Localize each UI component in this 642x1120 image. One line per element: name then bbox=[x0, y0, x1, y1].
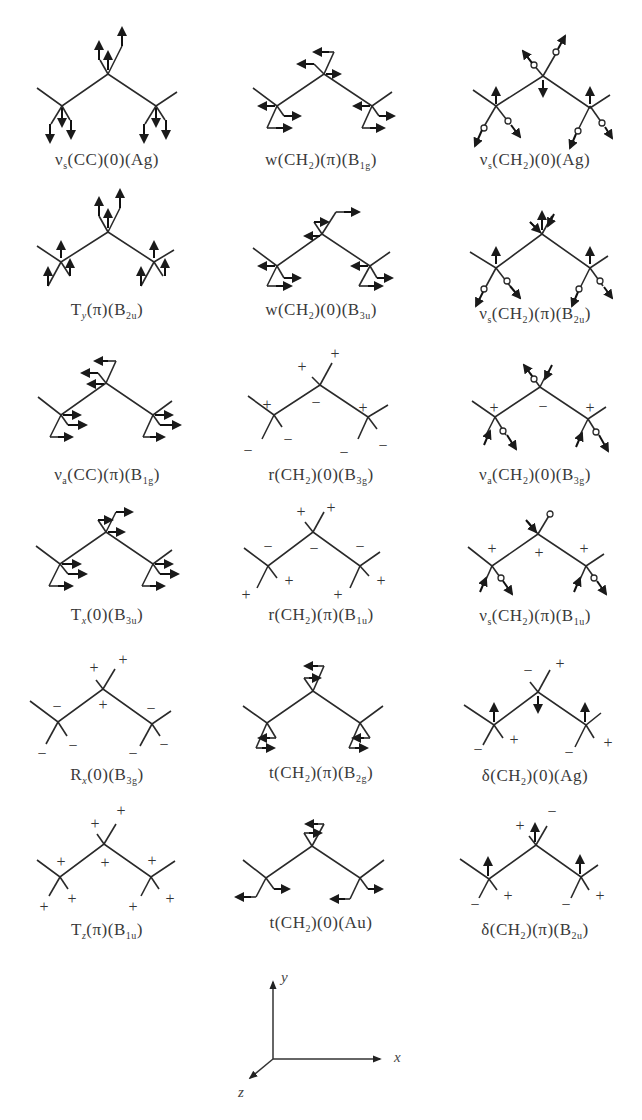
svg-text:+: + bbox=[56, 853, 65, 870]
x-axis-label: x bbox=[394, 1049, 401, 1066]
svg-text:+: + bbox=[376, 572, 385, 589]
svg-text:+: + bbox=[489, 399, 498, 416]
svg-text:+: + bbox=[579, 540, 588, 557]
mode-label: νa(CH2)(0)(B3g) bbox=[428, 465, 642, 486]
svg-text:−: − bbox=[564, 744, 573, 761]
svg-text:−: − bbox=[561, 896, 570, 913]
mode-label: w(CH2)(0)(B3u) bbox=[214, 300, 428, 321]
svg-text:+: + bbox=[90, 815, 99, 832]
svg-text:−: − bbox=[378, 437, 387, 454]
svg-text:+: + bbox=[326, 499, 335, 516]
svg-text:+: + bbox=[585, 399, 594, 416]
mode-label: νs(CH2)(0)(Ag) bbox=[428, 150, 642, 171]
mode-label: νs(CH2)(π)(B2u) bbox=[428, 304, 642, 325]
chain-diagram bbox=[428, 0, 642, 150]
svg-text:−: − bbox=[243, 442, 252, 459]
svg-text:+: + bbox=[89, 659, 98, 676]
mode-label: w(CH2)(π)(B1g) bbox=[214, 150, 428, 171]
svg-text:−: − bbox=[339, 444, 348, 461]
mode-label: δ(CH2)(π)(B2u) bbox=[428, 920, 642, 941]
svg-text:−: − bbox=[470, 896, 479, 913]
mode-label: δ(CH2)(0)(Ag) bbox=[428, 766, 642, 787]
svg-text:+: + bbox=[147, 852, 156, 869]
mode-w-ch2-0-b3u: w(CH2)(0)(B3u) bbox=[214, 180, 428, 330]
svg-text:−: − bbox=[68, 737, 77, 754]
mode-label: Rx(0)(B3g) bbox=[0, 765, 214, 786]
svg-text:+: + bbox=[118, 651, 127, 668]
svg-text:−: − bbox=[523, 662, 532, 679]
chain-diagram bbox=[0, 0, 214, 150]
svg-text:+: + bbox=[296, 503, 305, 520]
mode-nus-ch2-0-ag: νs(CH2)(0)(Ag) bbox=[428, 0, 642, 150]
z-axis bbox=[250, 1059, 273, 1078]
y-axis-label: y bbox=[281, 969, 288, 986]
svg-text:−: − bbox=[37, 745, 46, 762]
mode-ty-pi-b2u: Ty(π)(B2u) bbox=[0, 180, 214, 330]
svg-text:+: + bbox=[487, 540, 496, 557]
mode-t-ch2-0-au: t(CH2)(0)(Au) bbox=[214, 800, 428, 950]
mode-delta-ch2-pi-b2u: + − − + − + δ(CH2)(π)(B2u) bbox=[428, 800, 642, 950]
z-axis-label: z bbox=[238, 1084, 244, 1101]
svg-text:+: + bbox=[555, 655, 564, 672]
svg-text:+: + bbox=[330, 345, 339, 362]
mode-r-ch2-0-b3g: + + − + − − + − − r(CH2)(0)(B3g) bbox=[214, 355, 428, 505]
mode-label: νa(CC)(π)(B1g) bbox=[0, 465, 214, 486]
chain-diagram bbox=[214, 0, 428, 150]
mode-nua-cc-pi-b1g: νa(CC)(π)(B1g) bbox=[0, 355, 214, 505]
chain-diagram bbox=[0, 510, 214, 660]
mode-label: t(CH2)(π)(B2g) bbox=[214, 763, 428, 784]
svg-text:+: + bbox=[603, 734, 612, 751]
svg-text:+: + bbox=[67, 890, 76, 907]
svg-text:+: + bbox=[595, 887, 604, 904]
svg-text:+: + bbox=[98, 696, 107, 713]
svg-text:−: − bbox=[311, 394, 320, 411]
mode-r-ch2-pi-b1u: + + − − + + − + + r(CH2)(π)(B1u) bbox=[214, 510, 428, 660]
coordinate-axes: y x z bbox=[220, 965, 440, 1120]
svg-text:+: + bbox=[262, 396, 271, 413]
mode-label: Ty(π)(B2u) bbox=[0, 300, 214, 321]
mode-rx-0-b3g: + + + − − − − − − Rx(0)(B3g) bbox=[0, 650, 214, 800]
svg-text:−: − bbox=[52, 698, 61, 715]
chain-diagram: + + − − + + − + + bbox=[214, 510, 428, 660]
svg-text:+: + bbox=[128, 898, 137, 915]
svg-text:−: − bbox=[355, 538, 364, 555]
mode-tz-pi-b1u: + + + + + + + + + Tz(π)(B1u) bbox=[0, 800, 214, 950]
svg-text:+: + bbox=[116, 802, 125, 819]
axes-diagram bbox=[220, 965, 440, 1120]
svg-text:−: − bbox=[146, 700, 155, 717]
svg-text:+: + bbox=[515, 817, 524, 834]
svg-text:+: + bbox=[333, 586, 342, 603]
svg-text:+: + bbox=[509, 731, 518, 748]
mode-tx-0-b3u: Tx(0)(B3u) bbox=[0, 510, 214, 660]
mode-label: r(CH2)(π)(B1u) bbox=[214, 605, 428, 626]
mode-nus-ch2-pi-b2u: νs(CH2)(π)(B2u) bbox=[428, 180, 642, 330]
svg-text:+: + bbox=[39, 898, 48, 915]
svg-text:+: + bbox=[534, 544, 543, 561]
svg-text:+: + bbox=[284, 572, 293, 589]
svg-text:−: − bbox=[547, 803, 556, 820]
sign-plus: + bbox=[297, 358, 306, 375]
svg-text:+: + bbox=[241, 586, 250, 603]
mode-nus-cc-0-ag: νs(CC)(0)(Ag) bbox=[0, 0, 214, 150]
mode-label: νs(CH2)(π)(B1u) bbox=[428, 606, 642, 627]
mode-nua-ch2-0-b3g: + − + νa(CH2)(0)(B3g) bbox=[428, 355, 642, 505]
svg-text:+: + bbox=[503, 887, 512, 904]
svg-text:−: − bbox=[263, 538, 272, 555]
mode-delta-ch2-0-ag: − + − + − + δ(CH2)(0)(Ag) bbox=[428, 650, 642, 800]
svg-text:−: − bbox=[538, 398, 547, 415]
svg-text:−: − bbox=[473, 741, 482, 758]
mode-label: Tx(0)(B3u) bbox=[0, 605, 214, 626]
mode-w-ch2-pi-b1g: w(CH2)(π)(B1g) bbox=[214, 0, 428, 150]
svg-text:+: + bbox=[100, 854, 109, 871]
svg-text:+: + bbox=[165, 890, 174, 907]
mode-label: νs(CC)(0)(Ag) bbox=[0, 150, 214, 171]
mode-label: r(CH2)(0)(B3g) bbox=[214, 465, 428, 486]
mode-label: t(CH2)(0)(Au) bbox=[214, 913, 428, 934]
svg-text:−: − bbox=[128, 745, 137, 762]
mode-t-ch2-pi-b2g: t(CH2)(π)(B2g) bbox=[214, 650, 428, 800]
svg-text:−: − bbox=[309, 540, 318, 557]
svg-text:−: − bbox=[283, 431, 292, 448]
svg-text:+: + bbox=[358, 399, 367, 416]
mode-nus-ch2-pi-b1u: + + + νs(CH2)(π)(B1u) bbox=[428, 510, 642, 660]
svg-text:−: − bbox=[159, 736, 168, 753]
